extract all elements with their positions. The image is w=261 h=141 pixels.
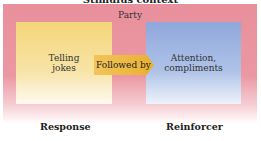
context-label: Party <box>3 10 257 20</box>
followed-by-arrow: Followed by <box>94 55 154 75</box>
response-label: Response <box>40 121 91 132</box>
reinforcer-text-1: Attention, <box>171 53 216 63</box>
response-text-1: Telling <box>49 53 80 63</box>
reinforcer-box: Attention,compliments <box>146 22 241 104</box>
reinforcer-text-2: compliments <box>164 63 222 73</box>
reinforcer-label: Reinforcer <box>166 121 223 132</box>
response-text-2: jokes <box>52 63 76 73</box>
arrow-label: Followed by <box>96 60 151 70</box>
